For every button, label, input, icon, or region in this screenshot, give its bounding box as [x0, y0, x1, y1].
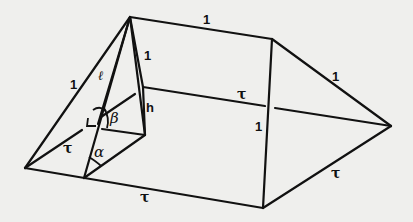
- right-angle-marker: [87, 118, 96, 126]
- label-middle-edge: τ: [237, 87, 246, 101]
- edge-top: [130, 17, 272, 39]
- label-vertical-edge: 1: [255, 120, 262, 133]
- diagram-canvas: 1 1 ℓ 1 h β α τ τ τ 1 1 τ: [0, 0, 413, 222]
- label-bottom-edge: τ: [140, 190, 149, 204]
- edge-left-base-lower: [25, 130, 82, 168]
- label-apex-edge: 1: [144, 49, 151, 62]
- edge-vertical-front: [263, 39, 272, 208]
- edge-middle-left: [143, 87, 265, 106]
- edge-left-slant: [25, 17, 130, 168]
- label-slant-height: ℓ: [98, 69, 103, 82]
- label-left-base: τ: [63, 141, 72, 155]
- label-right-upper-edge: 1: [332, 70, 339, 83]
- label-right-lower-edge: τ: [331, 166, 340, 180]
- edge-apex-to-h-base: [130, 17, 145, 135]
- edge-right-lower: [263, 126, 391, 208]
- label-top-edge: 1: [203, 13, 210, 26]
- edge-middle-right: [275, 108, 391, 126]
- label-angle-alpha: α: [94, 145, 104, 160]
- label-angle-beta: β: [110, 111, 119, 126]
- label-height: h: [146, 101, 154, 114]
- prism-drawing: [0, 0, 413, 222]
- label-left-slant-edge: 1: [70, 78, 77, 91]
- base-inner-horizontal: [102, 129, 145, 135]
